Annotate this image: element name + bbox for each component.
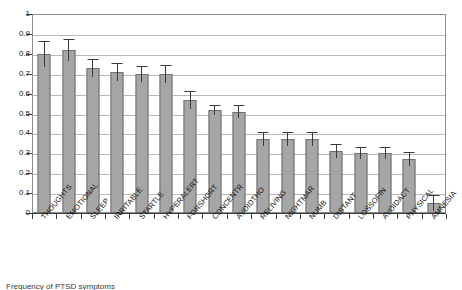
error-bar xyxy=(209,105,220,115)
x-tick-mark xyxy=(227,214,228,219)
y-tick-mark xyxy=(26,74,32,75)
bar-slot xyxy=(32,14,56,213)
error-bar-cap-top xyxy=(136,66,147,67)
bar xyxy=(38,54,51,213)
x-tick-mark xyxy=(56,214,57,219)
error-bar-cap-top xyxy=(185,91,196,92)
error-bar xyxy=(404,152,415,166)
error-bar-stem xyxy=(190,91,191,109)
error-bar-stem xyxy=(214,105,215,115)
figure-caption: Frequency of PTSD symptoms xyxy=(6,281,458,290)
error-bar xyxy=(39,41,50,67)
y-tick-mark xyxy=(26,133,32,134)
x-tick-mark xyxy=(154,214,155,219)
bar-slot xyxy=(154,14,178,213)
bar-chart: 10.90.80.70.60.50.40.30.20.10 THOUGHTSEM… xyxy=(0,0,462,290)
x-tick-mark xyxy=(324,214,325,219)
y-tick-mark xyxy=(26,193,32,194)
bar xyxy=(306,139,319,213)
error-bar-stem xyxy=(165,65,166,83)
error-bar xyxy=(87,59,98,77)
error-bar-cap-top xyxy=(282,132,293,133)
error-bar-cap-top xyxy=(331,144,342,145)
error-bar-stem xyxy=(336,144,337,158)
x-tick-mark xyxy=(422,214,423,219)
error-bar-cap-top xyxy=(39,41,50,42)
x-tick-mark xyxy=(397,214,398,219)
y-tick-mark xyxy=(26,94,32,95)
error-bar xyxy=(185,91,196,109)
x-tick-mark xyxy=(446,214,447,219)
error-bar xyxy=(380,147,391,159)
x-tick-mark xyxy=(32,214,33,219)
y-tick-mark xyxy=(26,173,32,174)
x-tick-mark xyxy=(178,214,179,219)
error-bar-stem xyxy=(68,39,69,61)
error-bar-stem xyxy=(409,152,410,166)
bar-slot xyxy=(324,14,348,213)
y-tick-mark xyxy=(26,54,32,55)
bar-slot xyxy=(422,14,446,213)
bar xyxy=(111,72,124,213)
error-bar-stem xyxy=(44,41,45,67)
error-bar-stem xyxy=(287,132,288,146)
x-tick-mark xyxy=(373,214,374,219)
x-tick-mark xyxy=(129,214,130,219)
y-tick-mark xyxy=(26,153,32,154)
bar-slot xyxy=(300,14,324,213)
error-bar-stem xyxy=(92,59,93,77)
error-bar xyxy=(331,144,342,158)
x-axis-labels: THOUGHTSEMOTIONALSLEEPIRRITABLESTARTLEHY… xyxy=(32,216,446,278)
error-bar-stem xyxy=(312,132,313,146)
error-bar-cap-top xyxy=(160,65,171,66)
x-tick-mark xyxy=(202,214,203,219)
error-bar-cap-top xyxy=(209,105,220,106)
y-tick-mark xyxy=(26,114,32,115)
bar-slot xyxy=(373,14,397,213)
bar-slot xyxy=(129,14,153,213)
error-bar-stem xyxy=(263,132,264,146)
x-tick-mark xyxy=(300,214,301,219)
error-bar-cap-top xyxy=(355,147,366,148)
x-tick-mark xyxy=(276,214,277,219)
x-tick-mark xyxy=(251,214,252,219)
error-bar-cap-top xyxy=(63,39,74,40)
error-bar xyxy=(355,147,366,159)
bar-slot xyxy=(105,14,129,213)
error-bar xyxy=(112,63,123,81)
error-bar xyxy=(233,105,244,119)
bar-slot xyxy=(397,14,421,213)
error-bar-cap-top xyxy=(307,132,318,133)
error-bar-stem xyxy=(141,66,142,82)
bar-slot xyxy=(349,14,373,213)
error-bar-cap-top xyxy=(258,132,269,133)
error-bar xyxy=(258,132,269,146)
error-bar-cap-top xyxy=(404,152,415,153)
error-bar-stem xyxy=(238,105,239,119)
error-bar-stem xyxy=(385,147,386,159)
error-bar xyxy=(136,66,147,82)
x-tick-mark xyxy=(81,214,82,219)
error-bar-cap-top xyxy=(233,105,244,106)
error-bar xyxy=(307,132,318,146)
error-bar xyxy=(63,39,74,61)
x-tick-mark xyxy=(105,214,106,219)
error-bar-stem xyxy=(360,147,361,159)
error-bar-stem xyxy=(117,63,118,81)
error-bar-cap-top xyxy=(380,147,391,148)
error-bar xyxy=(282,132,293,146)
error-bar-cap-top xyxy=(87,59,98,60)
error-bar-cap-top xyxy=(112,63,123,64)
x-tick-mark xyxy=(349,214,350,219)
bar-slot xyxy=(276,14,300,213)
y-tick-mark xyxy=(26,14,32,15)
y-tick-mark xyxy=(26,34,32,35)
bar-slot xyxy=(251,14,275,213)
bar xyxy=(281,139,294,213)
error-bar xyxy=(160,65,171,83)
